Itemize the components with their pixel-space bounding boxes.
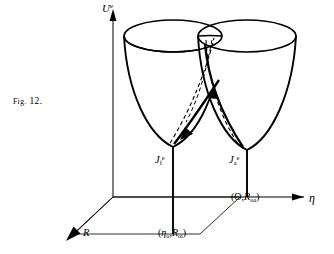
right-well-superscript: e [237,154,240,161]
eta-axis-arrowhead [292,194,304,201]
left-well-coordinate-label: (ηo,Roi) [158,228,186,239]
coord-a-first: O [234,191,241,202]
figure-drawing [0,0,334,254]
coord-a-close: ) [256,191,259,202]
figure-caption: Fig. 12. [13,96,43,106]
left-well-label: Jfe [155,155,165,167]
r-axis-label: R [83,228,89,239]
caption-number: 12. [29,96,42,106]
left-well-superscript: e [162,154,165,161]
u-axis-symbol: U [102,2,110,14]
right-well-coordinate-label: (O,Roa) [231,192,259,203]
coord-f-close: ) [183,227,186,238]
right-well-label: Jae [229,155,239,167]
u-axis-label: Ue [102,3,113,14]
caption-prefix: Fig. [13,97,27,106]
eta-axis-label: η [309,192,315,204]
figure-12-container: Fig. 12. Ue η R Jfe Jae (O,Roa) (ηo,Roi) [0,0,334,254]
u-axis-superscript: e [110,2,113,9]
base-plane [74,197,240,234]
